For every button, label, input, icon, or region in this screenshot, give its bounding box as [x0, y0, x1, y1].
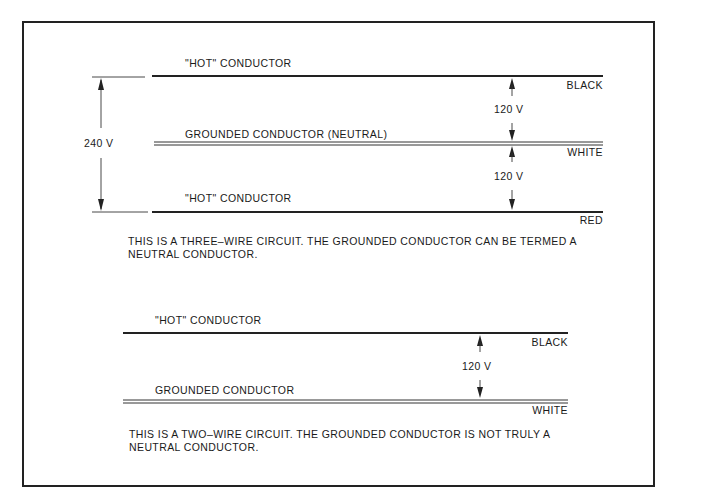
- color-label-black: BLACK: [532, 336, 568, 348]
- conductor-label-neutral: GROUNDED CONDUCTOR (NEUTRAL): [185, 128, 387, 140]
- color-label-white: WHITE: [567, 146, 603, 158]
- caption-three-wire-line1: THIS IS A THREE–WIRE CIRCUIT. THE GROUND…: [128, 235, 577, 247]
- arrow-down-icon: [477, 387, 483, 398]
- arrow-down-icon: [98, 199, 104, 211]
- caption-three-wire-line2: NEUTRAL CONDUCTOR.: [128, 248, 258, 260]
- arrow-up-icon: [98, 78, 104, 90]
- circuit-diagram: 240 V "HOT" CONDUCTOR BLACK 120 V GROUND…: [0, 0, 704, 500]
- voltage-label-120: 120 V: [462, 360, 491, 372]
- arrow-down-icon: [509, 130, 515, 141]
- conductor-label-hot-black: "HOT" CONDUCTOR: [155, 314, 262, 326]
- caption-two-wire-line2: NEUTRAL CONDUCTOR.: [129, 441, 259, 453]
- conductor-label-grounded: GROUNDED CONDUCTOR: [155, 384, 294, 396]
- caption-two-wire-line1: THIS IS A TWO–WIRE CIRCUIT. THE GROUNDED…: [129, 428, 550, 440]
- voltage-label-240: 240 V: [84, 137, 113, 149]
- voltage-label-120-upper: 120 V: [494, 103, 523, 115]
- color-label-white: WHITE: [532, 404, 568, 416]
- voltage-label-120-lower: 120 V: [494, 170, 523, 182]
- arrow-down-icon: [509, 199, 515, 210]
- color-label-red: RED: [580, 214, 603, 226]
- two-wire-circuit: "HOT" CONDUCTOR BLACK 120 V GROUNDED CON…: [123, 314, 568, 453]
- diagram-frame: [23, 22, 654, 486]
- three-wire-circuit: 240 V "HOT" CONDUCTOR BLACK 120 V GROUND…: [84, 57, 603, 260]
- conductor-label-hot-black: "HOT" CONDUCTOR: [185, 57, 292, 69]
- color-label-black: BLACK: [567, 79, 603, 91]
- conductor-label-hot-red: "HOT" CONDUCTOR: [185, 192, 292, 204]
